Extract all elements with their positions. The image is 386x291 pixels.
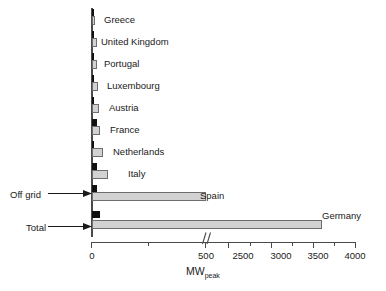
xtick-0 <box>91 242 92 248</box>
bar-total-portugal <box>92 60 97 69</box>
xtick-label-3500: 3500 <box>307 250 328 261</box>
bar-offgrid-netherlands <box>92 141 94 148</box>
x-axis-title-base: MW <box>186 265 205 277</box>
category-label-france: France <box>110 125 140 135</box>
xtick-3500 <box>313 242 314 248</box>
bar-total-greece <box>92 16 95 25</box>
xtick-3250 <box>292 242 293 246</box>
x-axis-title: MWpeak <box>186 265 220 279</box>
bar-total-luxembourg <box>92 82 98 91</box>
category-label-luxembourg: Luxembourg <box>107 81 160 91</box>
xtick-2750 <box>250 242 251 246</box>
bar-chart: Greece United Kingdom Portugal Luxembour… <box>0 0 386 291</box>
bar-offgrid-germany <box>92 211 100 218</box>
category-label-italy: Italy <box>128 169 145 179</box>
xtick-label-3000: 3000 <box>270 250 291 261</box>
bar-total-france <box>92 126 100 135</box>
category-label-germany: Germany <box>322 211 361 221</box>
annotation-total-label: Total <box>26 222 46 233</box>
bar-offgrid-united-kingdom <box>92 31 94 38</box>
bar-offgrid-luxembourg <box>92 75 94 82</box>
xtick-250 <box>148 242 149 246</box>
xtick-2500 <box>228 242 229 248</box>
annotation-off-grid-label: Off grid <box>10 189 41 200</box>
annotation-total-arrow <box>48 222 92 231</box>
category-label-greece: Greece <box>104 15 135 25</box>
annotation-off-grid-arrow <box>48 189 92 198</box>
bar-total-austria <box>92 104 99 113</box>
bar-total-spain <box>92 192 206 201</box>
bar-offgrid-spain <box>92 185 97 192</box>
x-axis-line <box>91 242 355 243</box>
xtick-3000 <box>271 242 272 248</box>
bar-offgrid-france <box>92 119 97 126</box>
bar-offgrid-austria <box>92 97 94 104</box>
xtick-label-0: 0 <box>89 250 94 261</box>
category-label-united-kingdom: United Kingdom <box>101 37 169 47</box>
category-label-spain: Spain <box>200 191 224 201</box>
bar-offgrid-greece <box>92 9 94 16</box>
x-axis-title-subscript: peak <box>205 272 220 279</box>
xtick-3750 <box>334 242 335 246</box>
xtick-label-2500: 2500 <box>232 250 253 261</box>
bar-total-netherlands <box>92 148 103 157</box>
bar-total-united-kingdom <box>92 38 97 47</box>
bar-offgrid-italy <box>92 163 97 170</box>
category-label-austria: Austria <box>109 103 139 113</box>
xtick-label-500: 500 <box>198 250 214 261</box>
bar-total-italy <box>92 170 108 179</box>
category-label-netherlands: Netherlands <box>113 147 164 157</box>
xtick-4000 <box>355 242 356 248</box>
category-label-portugal: Portugal <box>104 59 139 69</box>
xtick-label-4000: 4000 <box>344 250 365 261</box>
bar-total-germany <box>92 220 322 229</box>
bar-offgrid-portugal <box>92 53 94 60</box>
axis-break-marker <box>199 232 213 245</box>
